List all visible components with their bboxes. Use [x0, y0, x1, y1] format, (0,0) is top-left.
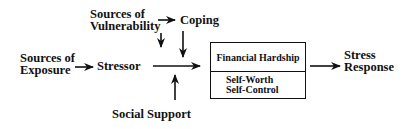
- node-sources-of-vulnerability: Sources of Vulnerability: [90, 8, 160, 32]
- node-label: Self-Control: [226, 85, 305, 95]
- node-label: Stressor: [97, 60, 141, 72]
- node-coping: Coping: [180, 14, 219, 26]
- node-label: Vulnerability: [90, 20, 160, 32]
- node-label: Coping: [180, 14, 219, 26]
- self-worth-self-control-cell: Self-Worth Self-Control: [211, 72, 305, 95]
- node-label: Exposure: [20, 64, 75, 76]
- outcome-box: Financial Hardship Self-Worth Self-Contr…: [210, 42, 306, 99]
- financial-hardship-cell: Financial Hardship: [211, 43, 305, 72]
- node-sources-of-exposure: Sources of Exposure: [20, 52, 75, 76]
- node-label: Social Support: [112, 108, 191, 120]
- node-label: Response: [344, 61, 394, 73]
- node-stress-response: Stress Response: [344, 49, 394, 73]
- node-social-support: Social Support: [112, 108, 191, 120]
- node-stressor: Stressor: [97, 60, 141, 72]
